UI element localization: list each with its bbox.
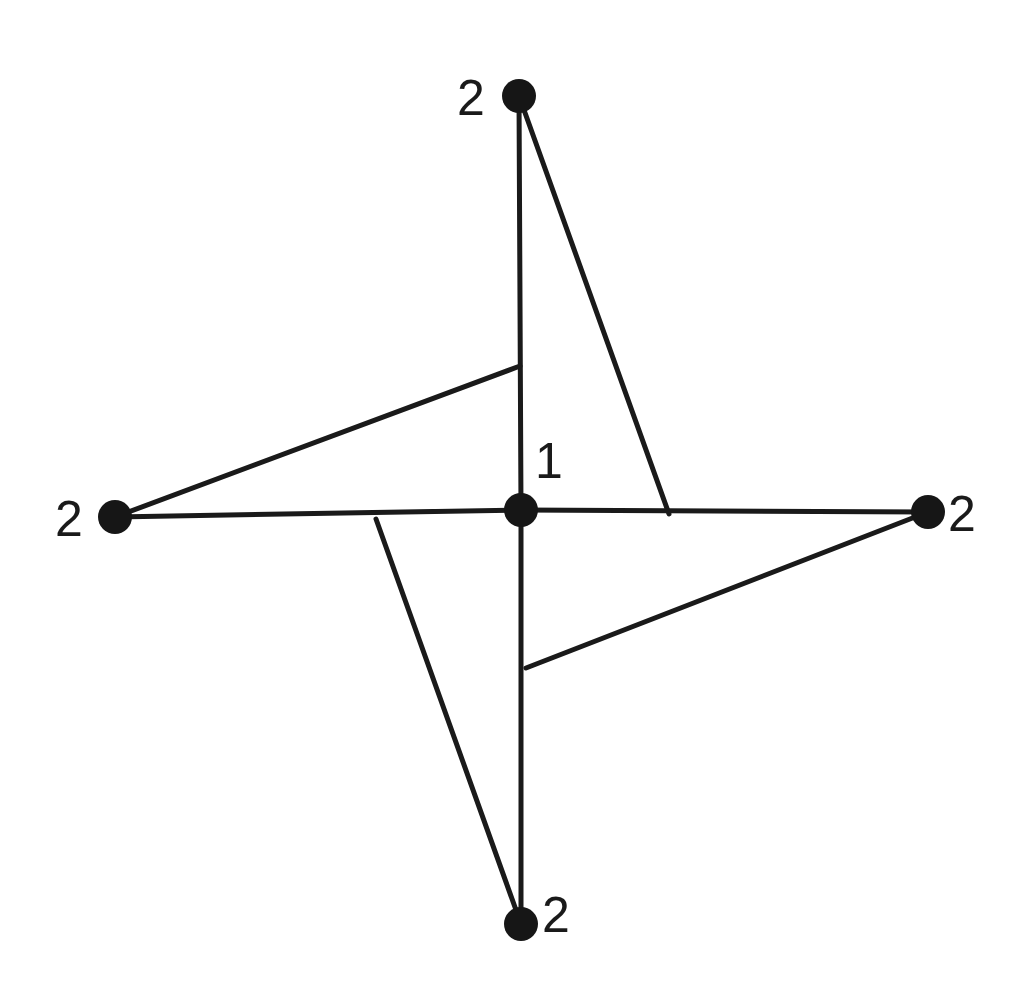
node-label-center: 1 (535, 433, 563, 489)
edge-center-top (519, 96, 521, 510)
node-bottom (504, 907, 538, 941)
edge-left-slant (115, 366, 520, 517)
node-right (911, 495, 945, 529)
node-label-right: 2 (948, 486, 976, 542)
edge-center-left (115, 510, 521, 517)
pinwheel-graph-diagram: 12222 (0, 0, 1035, 1002)
node-label-top: 2 (457, 70, 485, 126)
node-left (98, 500, 132, 534)
edge-bottom-slant (376, 519, 521, 924)
edge-right-slant (526, 512, 928, 668)
edge-center-right (521, 510, 928, 512)
node-top (502, 79, 536, 113)
node-label-bottom: 2 (542, 887, 570, 943)
node-label-left: 2 (55, 491, 83, 547)
node-center (504, 493, 538, 527)
